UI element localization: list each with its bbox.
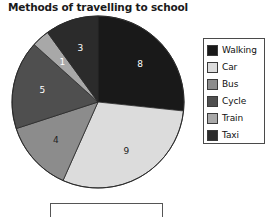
legend-item-car[interactable]: Car (207, 59, 264, 75)
chart-legend: Walking Car Bus Cycle Train Taxi (203, 38, 265, 144)
legend-item-taxi[interactable]: Taxi (207, 127, 264, 143)
legend-label-cycle: Cycle (222, 96, 246, 106)
legend-swatch-train (207, 113, 218, 124)
legend-item-walking[interactable]: Walking (207, 42, 264, 58)
legend-label-bus: Bus (222, 79, 238, 89)
legend-swatch-bus (207, 79, 218, 90)
legend-swatch-cycle (207, 96, 218, 107)
legend-label-train: Train (222, 113, 243, 123)
legend-swatch-walking (207, 45, 218, 56)
legend-swatch-car (207, 62, 218, 73)
answer-box[interactable] (50, 203, 163, 217)
pie-value-label-bus: 4 (53, 135, 59, 145)
legend-label-car: Car (222, 62, 237, 72)
legend-label-walking: Walking (222, 45, 257, 55)
pie-slices-group (12, 16, 184, 188)
legend-swatch-taxi (207, 130, 218, 141)
pie-value-label-walking: 8 (137, 59, 143, 69)
pie-value-label-cycle: 5 (40, 85, 46, 95)
pie-plot-area: 894513 (10, 14, 186, 190)
legend-item-cycle[interactable]: Cycle (207, 93, 264, 109)
legend-item-bus[interactable]: Bus (207, 76, 264, 92)
chart-title: Methods of travelling to school (8, 1, 188, 13)
legend-item-train[interactable]: Train (207, 110, 264, 126)
pie-chart-figure: Methods of travelling to school 894513 W… (0, 0, 270, 217)
legend-label-taxi: Taxi (222, 130, 239, 140)
pie-value-label-train: 1 (59, 57, 65, 67)
pie-svg: 894513 (10, 14, 186, 190)
pie-value-label-car: 9 (124, 146, 130, 156)
pie-value-label-taxi: 3 (78, 43, 84, 53)
